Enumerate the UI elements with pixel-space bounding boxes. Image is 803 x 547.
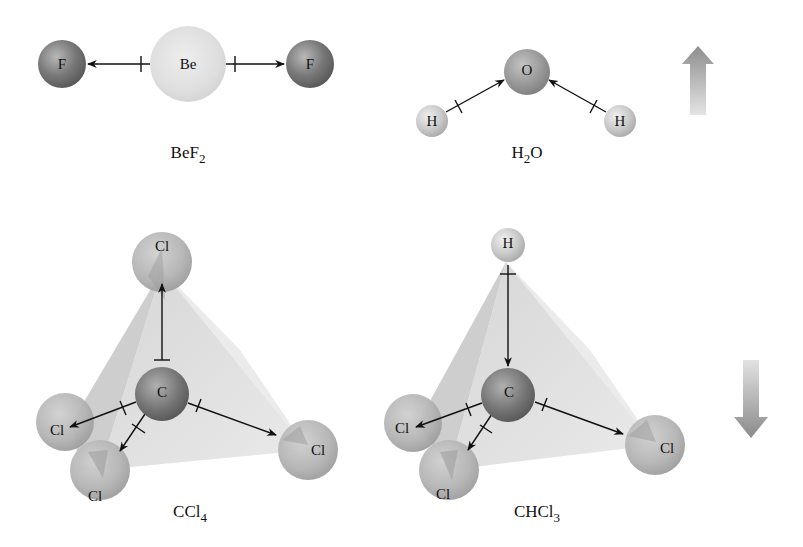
molecule-bef2: F Be F BeF2 [38, 26, 334, 166]
atom-h-top: H [491, 228, 525, 262]
atom-symbol: C [504, 384, 514, 400]
atom-h-right: H [604, 105, 636, 137]
atom-symbol: Cl [436, 486, 450, 502]
atom-symbol: Cl [395, 420, 409, 436]
atom-symbol: Cl [311, 442, 325, 458]
atom-symbol: Cl [88, 488, 102, 504]
atom-c: C [135, 367, 189, 421]
atom-f-right: F [286, 40, 334, 88]
molecule-chcl3: H Cl Cl Cl C CHCl3 [384, 228, 685, 525]
tetrahedron [418, 262, 655, 470]
molecule-ccl4: Cl Cl Cl Cl C CCl4 [36, 232, 338, 525]
atom-symbol: H [427, 113, 438, 129]
atom-be: Be [150, 26, 226, 102]
atom-symbol: Cl [660, 440, 674, 456]
atom-symbol: Be [180, 56, 197, 72]
atom-symbol: O [522, 62, 533, 78]
dipole-arrow-h-o-right [549, 80, 606, 112]
atom-f-left: F [38, 40, 86, 88]
atom-h-left: H [416, 105, 448, 137]
atom-cl-right: Cl [278, 420, 338, 480]
atom-cl-left: Cl [384, 394, 442, 452]
atom-o: O [504, 49, 550, 95]
atom-symbol: H [503, 235, 514, 251]
tetrahedron [72, 270, 308, 470]
molecule-label-h2o: H2O [511, 143, 542, 166]
molecule-label-chcl3: CHCl3 [514, 502, 560, 525]
dipole-arrow-h-o-left [446, 80, 504, 112]
atom-symbol: Cl [155, 238, 169, 254]
molecule-label-bef2: BeF2 [171, 143, 206, 166]
atom-symbol: F [306, 56, 314, 72]
atom-symbol: Cl [50, 422, 64, 438]
polarity-diagram: F Be F BeF2 O H H H2O [0, 0, 803, 547]
atom-cl-right: Cl [625, 415, 685, 475]
atom-c: C [481, 368, 535, 422]
atom-symbol: C [157, 384, 167, 400]
atom-symbol: F [58, 56, 66, 72]
atom-symbol: H [615, 113, 626, 129]
up-arrow-icon [682, 46, 714, 115]
atom-cl-left: Cl [36, 393, 94, 451]
atom-cl-bottom-left: Cl [419, 440, 479, 502]
molecule-h2o: O H H H2O [416, 49, 636, 166]
molecule-label-ccl4: CCl4 [173, 502, 207, 525]
down-arrow-icon [734, 360, 768, 438]
